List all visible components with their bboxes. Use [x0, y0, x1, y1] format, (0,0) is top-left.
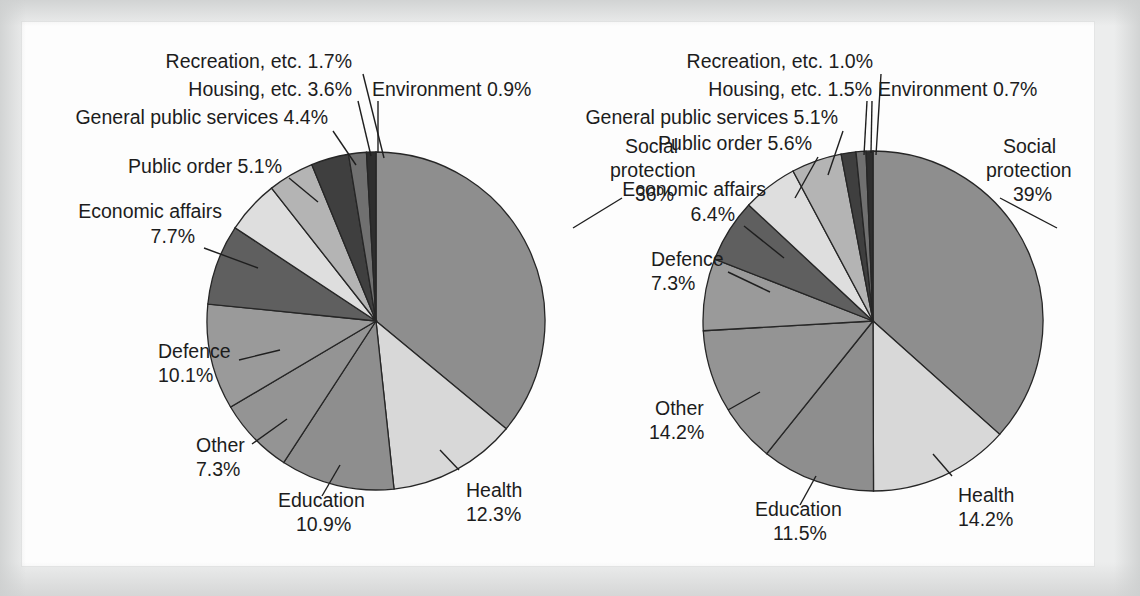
label-social-protection-value-right: 39% — [1013, 183, 1052, 205]
label-defence-value-right: 7.3% — [651, 272, 695, 294]
label-other-value-left: 7.3% — [196, 458, 240, 480]
label-defence-value-left: 10.1% — [158, 364, 213, 386]
label-other-left: Other — [196, 434, 245, 456]
label-defence-left: Defence — [158, 340, 231, 362]
label-social-protection-right-1: Social — [1003, 135, 1056, 157]
label-economic-affairs-right: Economic affairs — [622, 178, 766, 200]
label-health-value-right: 14.2% — [958, 508, 1013, 530]
label-economic-affairs-value-left: 7.7% — [151, 225, 195, 247]
label-education-right: Education — [755, 498, 842, 520]
label-recreation-right: Recreation, etc. 1.0% — [687, 50, 873, 72]
label-health-left: Health — [466, 479, 522, 501]
label-public-order-left: Public order 5.1% — [128, 155, 282, 177]
label-housing-left: Housing, etc. 3.6% — [188, 78, 352, 100]
label-other-right: Other — [655, 397, 704, 419]
label-economic-affairs-left: Economic affairs — [78, 200, 222, 222]
label-social-protection-right-2: protection — [986, 159, 1072, 181]
label-other-value-right: 14.2% — [649, 421, 704, 443]
label-health-right: Health — [958, 484, 1014, 506]
label-environment-left: Environment 0.9% — [372, 78, 531, 100]
label-education-left: Education — [278, 489, 365, 511]
label-environment-right: Environment 0.7% — [878, 78, 1037, 100]
label-recreation-left: Recreation, etc. 1.7% — [166, 50, 352, 72]
pie-chart-figure: Recreation, etc. 1.7% Housing, etc. 3.6%… — [0, 0, 1140, 596]
label-housing-right: Housing, etc. 1.5% — [708, 78, 872, 100]
label-defence-right: Defence — [651, 248, 724, 270]
label-health-value-left: 12.3% — [466, 503, 521, 525]
label-education-value-left: 10.9% — [296, 513, 351, 535]
label-education-value-right: 11.5% — [773, 522, 827, 544]
label-general-public-services-right: General public services 5.1% — [585, 106, 838, 128]
right-pie-slices — [703, 151, 1043, 491]
label-economic-affairs-value-right: 6.4% — [691, 203, 735, 225]
label-public-order-right: Public order 5.6% — [658, 132, 812, 154]
label-general-public-services-left: General public services 4.4% — [75, 106, 328, 128]
